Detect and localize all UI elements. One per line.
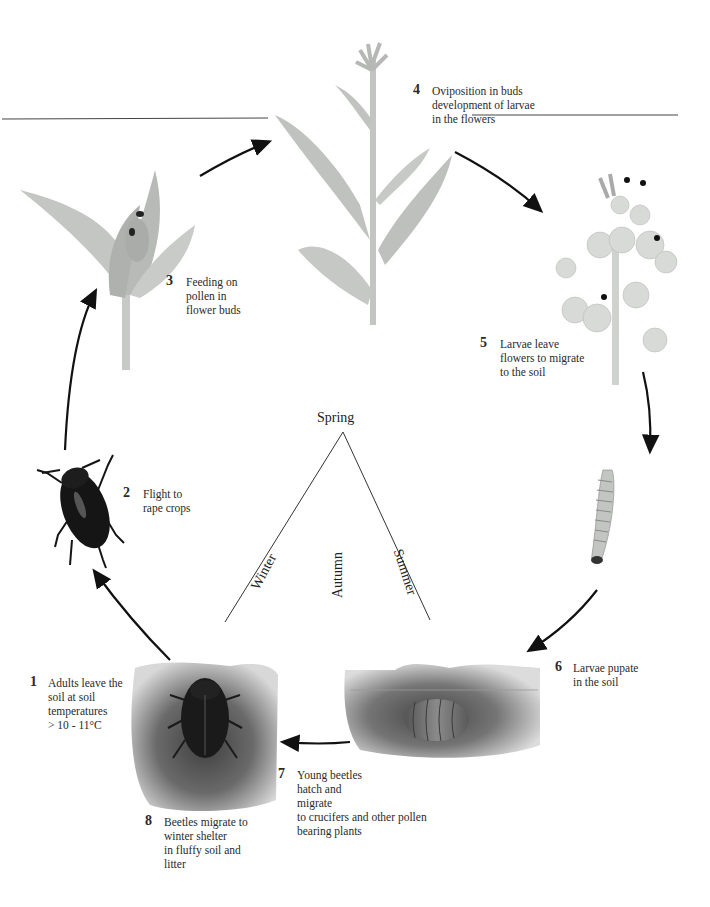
season-label-autumn: Autumn [330, 552, 346, 598]
stage-text: Flight to rape crops [143, 487, 213, 515]
stage-number: 6 [555, 660, 562, 674]
stage-number: 4 [413, 83, 420, 97]
stage-5-label: 5 Larvae leave flowers to migrate to the… [480, 337, 600, 379]
flying-beetle-illustration [37, 455, 124, 568]
horizontal-rules [2, 115, 678, 119]
stage-number: 3 [166, 274, 173, 288]
stage-1-label: 1 Adults leave the soil at soil temperat… [30, 676, 140, 732]
season-label-spring: Spring [317, 410, 354, 426]
soil-block-left [131, 663, 278, 812]
season-triangle [225, 432, 430, 622]
stage-3-label: 3 Feeding on pollen in flower buds [166, 275, 266, 317]
stage-number: 1 [30, 675, 37, 689]
stage-4-label: 4 Oviposition in buds development of lar… [413, 84, 563, 126]
stage-text: Adults leave the soil at soil temperatur… [48, 676, 140, 732]
stage-text: Oviposition in buds development of larva… [432, 84, 563, 126]
stage-text: Feeding on pollen in flower buds [186, 275, 266, 317]
stage-number: 5 [480, 336, 487, 350]
stage-6-label: 6 Larvae pupate in the soil [555, 661, 665, 689]
stage-text: Beetles migrate to winter shelter in flu… [164, 815, 285, 871]
larva-illustration [591, 470, 614, 564]
stage-number: 8 [145, 814, 152, 828]
flower-bud-illustration [20, 170, 195, 370]
stage-text: Larvae leave flowers to migrate to the s… [500, 337, 600, 379]
stage-text: Young beetles hatch and migrate to cruci… [297, 768, 468, 838]
stage-text: Larvae pupate in the soil [573, 661, 665, 689]
stage-7-label: 7 Young beetles hatch and migrate to cru… [278, 768, 468, 838]
stage-8-label: 8 Beetles migrate to winter shelter in f… [145, 815, 285, 871]
soil-block-right [344, 664, 540, 758]
stage-number: 7 [278, 767, 285, 781]
stage-number: 2 [123, 486, 130, 500]
stage-2-label: 2 Flight to rape crops [123, 487, 213, 515]
